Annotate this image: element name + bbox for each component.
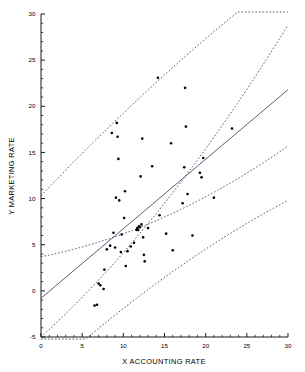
data-point xyxy=(140,223,143,226)
x-tick-label: 30 xyxy=(285,342,292,349)
data-points xyxy=(93,76,233,307)
x-axis-title: X ACCOUNTING RATE xyxy=(122,357,205,366)
y-axis-tick-labels: -5051015202530 xyxy=(29,10,36,340)
y-tick-label: 30 xyxy=(29,10,36,17)
axes-group xyxy=(41,14,288,337)
data-point xyxy=(199,171,202,174)
data-point xyxy=(191,234,194,237)
y-tick-label: -5 xyxy=(30,333,36,340)
data-point xyxy=(183,166,186,169)
y-tick-label: 15 xyxy=(29,149,36,156)
data-point xyxy=(133,242,136,245)
data-point xyxy=(147,227,150,230)
data-point xyxy=(124,190,127,193)
data-point xyxy=(103,268,106,271)
y-axis-title: Y MARKETING RATE xyxy=(7,137,16,215)
data-point xyxy=(165,232,168,235)
data-point xyxy=(118,199,121,202)
regression-line xyxy=(41,90,288,299)
data-point xyxy=(116,135,119,138)
data-point xyxy=(139,175,142,178)
data-point xyxy=(129,245,132,248)
x-tick-label: 15 xyxy=(161,342,168,349)
data-point xyxy=(142,236,145,239)
x-tick-label: 0 xyxy=(39,342,43,349)
data-point xyxy=(231,127,234,130)
data-point xyxy=(143,254,146,257)
plot-canvas: -5051015202530 051015202530 X ACCOUNTING… xyxy=(0,0,305,372)
data-point xyxy=(112,231,115,234)
y-tick-label: 25 xyxy=(29,56,36,63)
y-tick-label: 0 xyxy=(32,287,36,294)
data-point xyxy=(181,202,184,205)
data-point xyxy=(120,233,123,236)
confidence-band-line xyxy=(41,12,288,196)
data-point xyxy=(137,229,140,232)
confidence-band-line xyxy=(41,146,288,257)
data-point xyxy=(170,142,173,145)
data-point xyxy=(102,288,105,291)
x-tick-label: 25 xyxy=(243,342,250,349)
data-point xyxy=(186,193,189,196)
data-point xyxy=(93,304,96,307)
data-point xyxy=(158,214,161,217)
confidence-band-line xyxy=(41,200,288,339)
data-point xyxy=(185,125,188,128)
x-axis-tick-labels: 051015202530 xyxy=(39,342,292,349)
data-point xyxy=(125,265,128,268)
data-point xyxy=(114,246,117,249)
data-point xyxy=(120,251,123,254)
data-point xyxy=(96,303,99,306)
y-tick-label: 5 xyxy=(32,241,36,248)
data-point xyxy=(171,249,174,252)
x-tick-label: 20 xyxy=(202,342,209,349)
confidence-bands xyxy=(41,12,288,339)
data-point xyxy=(117,158,120,161)
data-point xyxy=(111,132,114,135)
y-axis-ticks xyxy=(41,14,45,337)
data-point xyxy=(213,196,216,199)
x-tick-label: 5 xyxy=(80,342,84,349)
data-point xyxy=(202,157,205,160)
y-tick-label: 10 xyxy=(29,195,36,202)
data-point xyxy=(106,248,109,251)
data-point xyxy=(157,76,160,79)
data-point xyxy=(115,122,118,125)
data-point xyxy=(184,87,187,90)
data-point xyxy=(151,165,154,168)
x-tick-label: 10 xyxy=(120,342,127,349)
scatter-plot-figure: -5051015202530 051015202530 X ACCOUNTING… xyxy=(0,0,305,372)
data-point xyxy=(109,244,112,247)
x-axis-ticks xyxy=(41,333,288,337)
data-point xyxy=(141,137,144,140)
data-point xyxy=(139,226,142,229)
confidence-band-line xyxy=(41,25,288,337)
data-point xyxy=(143,260,146,263)
data-point xyxy=(115,196,118,199)
data-point xyxy=(200,176,203,179)
data-point xyxy=(99,284,102,287)
data-point xyxy=(126,250,129,253)
y-tick-label: 20 xyxy=(29,102,36,109)
data-point xyxy=(123,217,126,220)
